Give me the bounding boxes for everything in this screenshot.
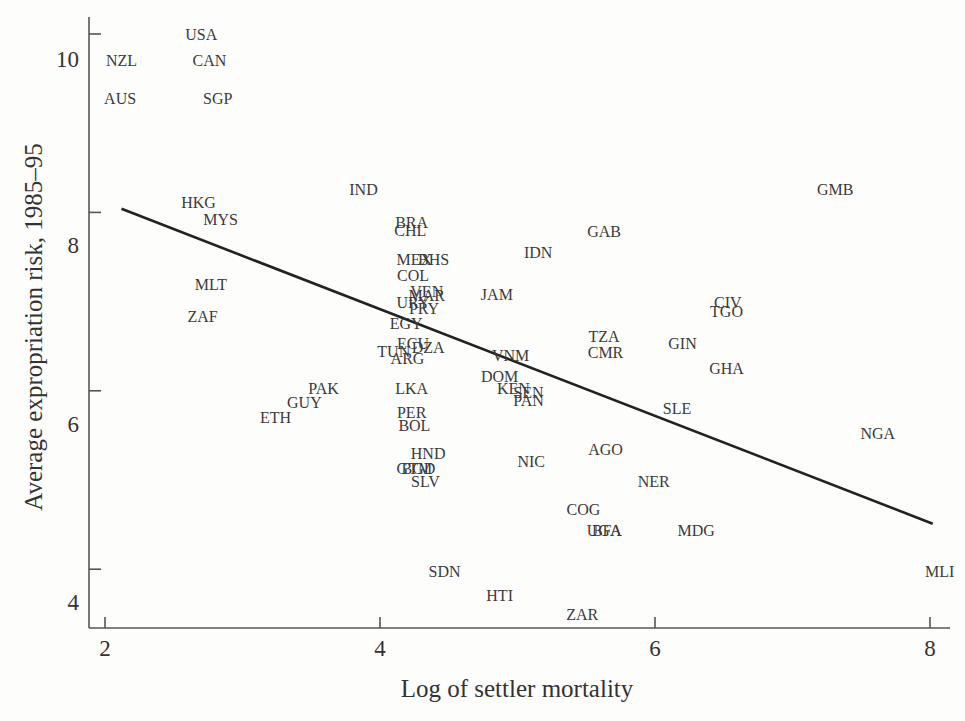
y-tick-label: 4	[68, 590, 80, 615]
point-label-hkg: HKG	[181, 194, 216, 211]
point-label-cmr: CMR	[588, 344, 624, 361]
country-labels: USANZLCANAUSSGPHKGMYSINDGMBBRACHLGABIDNM…	[104, 26, 954, 623]
point-label-ago: AGO	[588, 441, 623, 458]
point-label-arg: ARG	[391, 350, 425, 367]
point-label-idn: IDN	[524, 244, 553, 261]
x-tick-label: 8	[924, 636, 936, 661]
x-axis-title: Log of settler mortality	[401, 675, 634, 702]
point-label-chl: CHL	[394, 222, 426, 239]
point-label-nga: NGA	[860, 425, 895, 442]
y-tick-label: 10	[56, 47, 79, 72]
point-label-guy: GUY	[287, 394, 322, 411]
y-tick-label: 8	[68, 233, 80, 258]
point-label-eth: ETH	[260, 409, 292, 426]
point-label-nzl: NZL	[106, 52, 137, 69]
point-label-pan: PAN	[513, 392, 544, 409]
point-label-can: CAN	[193, 52, 227, 69]
point-label-jam: JAM	[481, 286, 513, 303]
x-tick-label: 2	[99, 636, 111, 661]
point-label-sgp: SGP	[203, 90, 232, 107]
x-axis-ticks: 2468	[99, 617, 936, 661]
point-label-gmb: GMB	[817, 181, 853, 198]
point-label-vnm: VNM	[492, 347, 529, 364]
point-label-sle: SLE	[663, 400, 691, 417]
point-label-nic: NIC	[517, 453, 545, 470]
point-label-tgo: TGO	[710, 303, 743, 320]
point-label-hti: HTI	[486, 587, 513, 604]
scatter-chart: 46810 2468 USANZLCANAUSSGPHKGMYSINDGMBBR…	[0, 0, 965, 721]
axes: 46810 2468	[56, 17, 950, 661]
point-label-sdn: SDN	[429, 563, 461, 580]
point-label-gab: GAB	[587, 223, 621, 240]
point-label-cog: COG	[567, 501, 601, 518]
point-label-bol: BOL	[398, 417, 430, 434]
point-label-zaf: ZAF	[188, 308, 218, 325]
point-label-gha: GHA	[709, 360, 744, 377]
point-label-mdg: MDG	[678, 522, 716, 539]
point-label-mys: MYS	[203, 211, 238, 228]
point-label-lka: LKA	[395, 380, 428, 397]
point-label-slv: SLV	[411, 473, 440, 490]
y-tick-label: 6	[68, 412, 80, 437]
y-axis-ticks: 46810	[56, 34, 101, 615]
point-label-egy: EGY	[390, 315, 423, 332]
point-label-ind: IND	[349, 181, 377, 198]
point-label-col: COL	[397, 267, 429, 284]
point-label-bhs: BHS	[418, 251, 449, 268]
point-label-mli: MLI	[925, 563, 954, 580]
x-tick-label: 4	[374, 636, 386, 661]
point-label-gin: GIN	[668, 335, 697, 352]
point-label-usa: USA	[185, 26, 217, 43]
point-label-ner: NER	[638, 473, 670, 490]
point-label-zar: ZAR	[566, 606, 598, 623]
point-label-bfa: BFA	[592, 522, 622, 539]
y-axis-title: Average expropriation risk, 1985–95	[20, 143, 47, 511]
x-tick-label: 6	[649, 636, 661, 661]
point-label-aus: AUS	[104, 90, 136, 107]
point-label-mlt: MLT	[195, 276, 228, 293]
